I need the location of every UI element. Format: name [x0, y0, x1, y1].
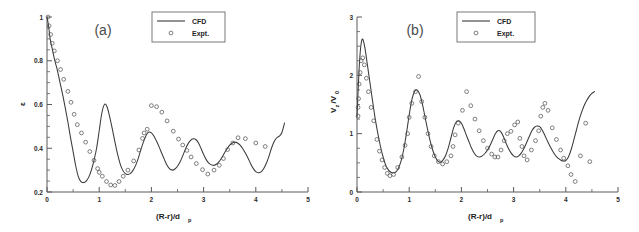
expt-point	[505, 132, 509, 136]
expt-point	[254, 141, 258, 145]
expt-point	[520, 145, 524, 149]
x-axis-title: (R-r)/d	[468, 212, 492, 221]
y-axis-title-group: ε	[18, 102, 27, 106]
expt-point	[375, 138, 379, 142]
expt-point	[222, 157, 226, 161]
x-tick-label: 4	[564, 196, 568, 203]
expt-point	[100, 174, 104, 178]
expt-point	[217, 163, 221, 167]
panel-a-svg: 0123450.20.40.60.81(a)(R-r)/dpεCFDExpt.	[0, 0, 320, 232]
expt-point	[181, 143, 185, 147]
expt-point	[588, 160, 592, 164]
expt-point	[518, 136, 522, 140]
expt-point	[456, 121, 460, 125]
y-tick-label: 0.2	[34, 189, 43, 196]
expt-point	[516, 120, 520, 124]
expt-point	[97, 170, 101, 174]
expt-point	[72, 112, 76, 116]
expt-point	[145, 127, 149, 131]
x-tick-label: 2	[150, 196, 154, 203]
chart-panel-b: 0123450123(b)(R-r)/dpVz/V0CFDExpt.	[320, 0, 639, 232]
x-axis-title-subscript: p	[500, 217, 504, 223]
expt-point	[513, 123, 517, 127]
expt-point	[88, 150, 92, 154]
expt-point	[109, 183, 113, 187]
expt-point	[388, 174, 392, 178]
expt-point	[189, 155, 193, 159]
expt-point	[441, 162, 445, 166]
x-tick-label: 3	[512, 196, 516, 203]
expt-point	[206, 172, 210, 176]
x-tick-label: 5	[306, 196, 310, 203]
panel-b-svg: 0123450123(b)(R-r)/dpVz/V0CFDExpt.	[320, 0, 639, 232]
x-tick-label: 1	[97, 196, 101, 203]
expt-point	[537, 129, 541, 133]
expt-point	[142, 131, 146, 135]
x-tick-label: 0	[355, 196, 359, 203]
expt-point	[490, 152, 494, 156]
expt-point	[562, 156, 566, 160]
expt-point	[477, 129, 481, 133]
x-tick-label: 1	[407, 196, 411, 203]
panel-label: (b)	[406, 22, 423, 38]
legend-cfd-label: CFD	[497, 18, 511, 25]
expt-point	[66, 89, 70, 93]
expt-point	[461, 108, 465, 112]
expt-point	[96, 167, 100, 171]
y-axis-title: ε	[18, 102, 27, 106]
expt-point	[473, 117, 477, 121]
panel-label: (a)	[94, 22, 111, 38]
expt-point	[559, 148, 563, 152]
chart-panel-a: 0123450.20.40.60.81(a)(R-r)/dpεCFDExpt.	[0, 0, 320, 232]
expt-point	[126, 168, 130, 172]
expt-point	[451, 145, 455, 149]
x-tick-label: 4	[254, 196, 258, 203]
expt-point	[525, 158, 529, 162]
legend-box	[152, 12, 225, 42]
y-axis-title-sub2: 0	[334, 91, 340, 94]
expt-point	[509, 129, 513, 133]
expt-point	[137, 148, 141, 152]
expt-point	[155, 105, 159, 109]
expt-point	[550, 126, 554, 130]
x-tick-label: 3	[202, 196, 206, 203]
y-tick-label: 0.4	[34, 145, 43, 152]
x-axis-title-subscript: p	[188, 217, 192, 223]
y-tick-label: 0.8	[34, 57, 43, 64]
expt-point	[132, 159, 136, 163]
y-axis-title-group: Vz/V0	[329, 91, 340, 113]
x-tick-label: 0	[45, 196, 49, 203]
y-tick-label: 0	[349, 189, 353, 196]
y-tick-label: 1	[39, 14, 43, 21]
expt-point	[160, 110, 164, 114]
y-axis-title-sub1: z	[334, 105, 340, 108]
expt-point	[185, 149, 189, 153]
legend: CFDExpt.	[152, 12, 225, 42]
x-tick-label: 5	[616, 196, 620, 203]
y-tick-label: 3	[349, 14, 353, 21]
expt-point	[362, 63, 366, 67]
expt-point	[80, 131, 84, 135]
legend-expt-label: Expt.	[192, 30, 209, 38]
expt-point	[449, 154, 453, 158]
legend-expt-label: Expt.	[497, 30, 514, 38]
expt-point	[584, 121, 588, 125]
figure-container: 0123450.20.40.60.81(a)(R-r)/dpεCFDExpt. …	[0, 0, 639, 232]
expt-point	[555, 138, 559, 142]
expt-point	[378, 149, 382, 153]
expt-point	[56, 59, 60, 63]
expt-point	[113, 184, 117, 188]
expt-point	[541, 106, 545, 110]
expt-point	[546, 108, 550, 112]
y-axis-title-mid: /V	[329, 95, 338, 103]
expt-point	[579, 154, 583, 158]
legend: CFDExpt.	[457, 12, 535, 42]
expt-point	[383, 166, 387, 170]
expt-point	[236, 136, 240, 140]
expt-point	[84, 140, 88, 144]
y-tick-label: 1	[349, 130, 353, 137]
expt-point	[417, 75, 421, 79]
expt-point	[105, 180, 109, 184]
expt-point	[534, 139, 538, 143]
expt-point	[121, 174, 125, 178]
